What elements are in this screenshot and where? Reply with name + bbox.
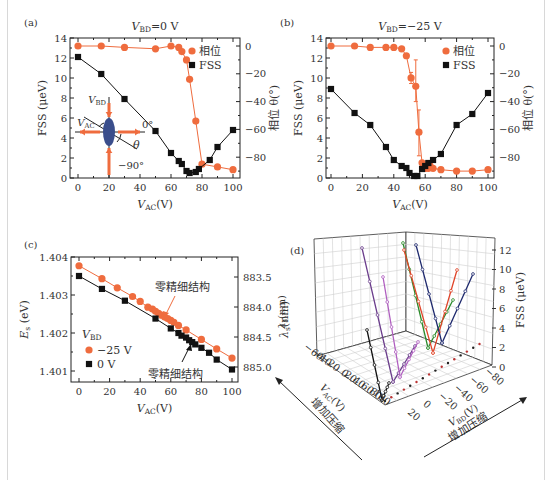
series-0-point (99, 286, 105, 292)
phase-point (437, 166, 444, 173)
fss-point (75, 54, 81, 60)
series-0-point (168, 325, 174, 331)
legend-phase-marker (188, 47, 195, 54)
fss-point (383, 144, 389, 150)
y-tick-label: 14 (310, 33, 323, 44)
y-axis-label: FSS (μeV) (36, 80, 49, 136)
fss-curve-3d-point (399, 376, 402, 379)
y2-axis-label: 相位 θ(°) (267, 85, 281, 131)
phase-point (167, 42, 174, 49)
y-axis-label: Es (eV) (18, 300, 32, 339)
y2-tick-label: 884.5 (243, 332, 272, 343)
fss-curve-3d-point (402, 242, 405, 245)
fss-curve-3d-point (373, 364, 376, 367)
series-0-point (192, 341, 198, 347)
y2-tick-label: −20 (499, 68, 520, 79)
phase-point (351, 42, 358, 49)
fss-point (430, 157, 436, 163)
fss-curve-3d-point (433, 335, 436, 338)
fss-curve-3d-point (424, 326, 427, 329)
phase-point (214, 163, 221, 170)
phase-point (415, 129, 422, 136)
series-m25-point (175, 322, 182, 329)
fss-curve-3d-point (403, 363, 406, 366)
x-tick-label: 80 (195, 386, 208, 397)
y2-tick-label: −40 (245, 96, 266, 107)
x-tick-label: 0 (76, 386, 82, 397)
series-0-point (76, 273, 82, 279)
figure: 020406080100024681012140−20−40−60−80(a)V… (0, 0, 551, 480)
floor-min-dot (441, 366, 443, 368)
series-m25-point (183, 326, 190, 333)
phase-point (403, 52, 410, 59)
fss-point (168, 150, 174, 156)
series-m25-point (98, 275, 105, 282)
inset-theta-label: θ (133, 139, 140, 152)
phase-point (192, 117, 199, 124)
x-tick-label: 100 (223, 182, 242, 193)
floor-min-dot (453, 358, 455, 360)
fss-point (328, 86, 334, 92)
annotation-arrowhead-bottom (186, 344, 192, 351)
x-axis-label: VAC(V) (392, 198, 428, 212)
fss-curve-3d-point (427, 347, 430, 350)
y2-tick-label: −40 (499, 96, 520, 107)
floor-min-dot (478, 343, 480, 345)
panel-letter: (b) (280, 17, 294, 28)
fss-curve-3d-point (444, 310, 447, 313)
fss-curve-3d-point (384, 347, 387, 350)
series-m25-point (75, 262, 82, 269)
y2-tick-label: 0 (245, 41, 251, 52)
phase-point (407, 74, 414, 81)
fss-point (214, 144, 220, 150)
x-tick-label: 60 (164, 386, 177, 397)
panel-title: VBD=−25 V (378, 20, 442, 34)
panel-title: VBD=0 V (131, 20, 179, 34)
inset-zero-label: 0° (142, 119, 153, 130)
inset-vac-label: VAC (77, 117, 94, 130)
phase-point (186, 76, 193, 83)
fss-point (121, 96, 127, 102)
x-tick-label: 80 (196, 182, 209, 193)
fss-point (367, 122, 373, 128)
phase-point (382, 44, 389, 51)
x-tick-label: 60 (419, 182, 432, 193)
legend-0-label: 0 V (97, 358, 116, 371)
fss-curve-3d-point (456, 307, 459, 310)
legend-phase-marker (442, 47, 449, 54)
y-tick-label: 12 (54, 53, 67, 64)
y-tick-label: 0 (61, 173, 67, 184)
floor-min-dot (459, 354, 461, 356)
fss-curve-3d-point (450, 289, 453, 292)
arrow-vac-right-head (135, 129, 140, 136)
y-tick-label: 1.404 (39, 252, 68, 263)
fss-curve-3d-point (420, 320, 423, 323)
fss-curve-3d-point (386, 386, 389, 389)
fss-curve-3d-point (452, 299, 455, 302)
legend-0-marker (86, 361, 92, 367)
legend-m25-marker (85, 346, 92, 353)
y2-tick-label: −20 (245, 68, 266, 79)
panel-letter: (a) (24, 17, 38, 28)
fss-curve-3d-point (403, 249, 406, 252)
fss-point (485, 90, 491, 96)
fss-curve-3d-point (366, 329, 369, 332)
fss-point (207, 157, 213, 163)
x-tick-label: 20 (356, 182, 369, 193)
fss-curve-3d-point (408, 358, 411, 361)
x-axis-label: VAC(V) (137, 402, 173, 416)
legend-phase-label: 相位 (199, 44, 221, 58)
legend-phase-label: 相位 (453, 44, 475, 58)
series-m25-point (228, 354, 235, 361)
floor-min-dot (409, 385, 411, 387)
fss-curve-3d-point (417, 341, 420, 344)
phase-point (152, 45, 159, 52)
fss-curve-3d-point (394, 351, 397, 354)
fss-curve-3d-point (441, 342, 444, 345)
x-tick-label: 100 (222, 386, 241, 397)
y2-tick-label: −60 (245, 124, 266, 135)
series-0-point (152, 315, 158, 321)
fss-curve-3d-point (376, 314, 379, 317)
x-tick-label: 40 (387, 182, 400, 193)
z-tick-label: 6 (499, 303, 505, 314)
